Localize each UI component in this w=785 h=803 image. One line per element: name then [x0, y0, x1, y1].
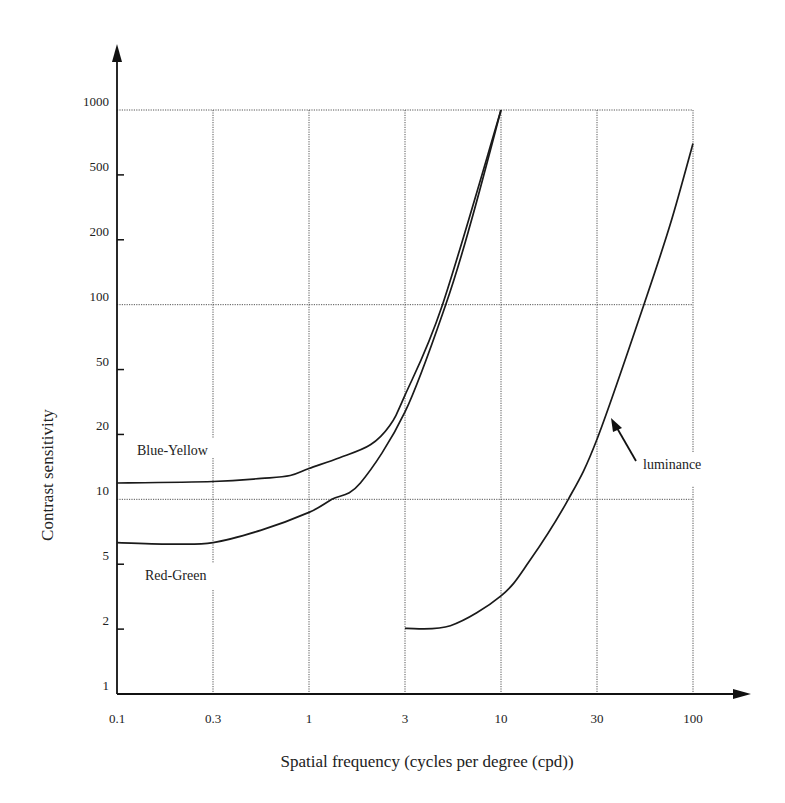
x-tick-label: 30	[591, 711, 604, 726]
x-tick-label: 0.3	[205, 711, 221, 726]
y-tick-label: 1	[103, 678, 110, 693]
label-luminance: luminance	[643, 457, 701, 472]
gridlines	[117, 110, 693, 694]
x-tick-label: 100	[683, 711, 703, 726]
label-blue-yellow: Blue-Yellow	[137, 443, 209, 458]
y-tick-label: 5	[103, 548, 110, 563]
x-axis-title: Spatial frequency (cycles per degree (cp…	[280, 752, 573, 771]
label-red-green: Red-Green	[145, 568, 206, 583]
y-tick-label: 20	[96, 418, 109, 433]
curve-luminance	[405, 143, 693, 628]
y-tick-label: 10	[96, 483, 109, 498]
y-tick-label: 100	[90, 289, 110, 304]
x-tick-label: 10	[495, 711, 508, 726]
y-tick-label: 200	[90, 224, 110, 239]
y-axis-arrow-icon	[112, 44, 122, 62]
y-tick-label: 1000	[83, 94, 109, 109]
y-tick-label: 50	[96, 354, 109, 369]
x-tick-label: 1	[306, 711, 313, 726]
y-tick-label: 2	[103, 613, 110, 628]
axis-ticks: 12510205010020050010000.10.3131030100	[83, 94, 703, 726]
y-axis-title: Contrast sensitivity	[38, 409, 57, 541]
y-tick-label: 500	[90, 159, 110, 174]
x-axis-arrow-icon	[733, 689, 751, 699]
x-tick-label: 3	[402, 711, 409, 726]
x-tick-label: 0.1	[109, 711, 125, 726]
axes	[112, 44, 751, 699]
contrast-sensitivity-chart: 12510205010020050010000.10.3131030100 Sp…	[0, 0, 785, 803]
luminance-arrow-icon	[611, 418, 636, 461]
